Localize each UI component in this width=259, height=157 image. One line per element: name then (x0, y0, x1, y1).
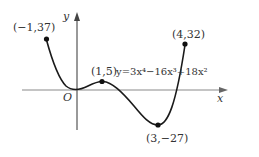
equation-label: y=3x⁴−16x³+18x² (115, 66, 208, 77)
function-graph: (−1,37) (1,5) (3,−27) (4,32) y=3x⁴−16x³+… (0, 0, 259, 157)
origin-label: O (63, 91, 72, 104)
point-1-5 (99, 79, 104, 84)
point-minus1-37 (44, 36, 49, 41)
y-axis-arrow-icon (74, 12, 80, 21)
point-label-p2: (1,5) (91, 65, 117, 78)
point-label-p4: (4,32) (172, 28, 205, 41)
x-axis-label: x (217, 92, 224, 105)
point-label-p1: (−1,37) (13, 21, 55, 34)
function-curve (47, 40, 186, 125)
point-3-minus27 (155, 122, 160, 127)
point-label-p3: (3,−27) (146, 132, 188, 145)
y-axis-label: y (62, 10, 70, 23)
point-4-32 (182, 41, 187, 46)
